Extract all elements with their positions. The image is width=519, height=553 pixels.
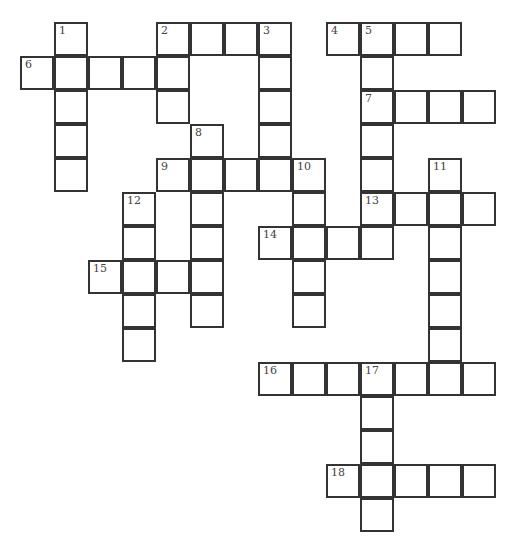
crossword-cell[interactable] xyxy=(292,192,326,226)
clue-number: 11 xyxy=(433,161,447,173)
crossword-cell[interactable]: 9 xyxy=(156,158,190,192)
crossword-cell[interactable] xyxy=(190,158,224,192)
crossword-cell[interactable]: 8 xyxy=(190,124,224,158)
crossword-cell[interactable]: 18 xyxy=(326,464,360,498)
crossword-cell[interactable] xyxy=(190,22,224,56)
crossword-cell[interactable] xyxy=(54,158,88,192)
crossword-cell[interactable]: 6 xyxy=(20,56,54,90)
crossword-cell[interactable]: 7 xyxy=(360,90,394,124)
crossword-cell[interactable]: 10 xyxy=(292,158,326,192)
crossword-cell[interactable] xyxy=(156,90,190,124)
crossword-cell[interactable]: 16 xyxy=(258,362,292,396)
crossword-cell[interactable] xyxy=(394,192,428,226)
crossword-cell[interactable] xyxy=(428,260,462,294)
crossword-cell[interactable]: 4 xyxy=(326,22,360,56)
clue-number: 12 xyxy=(127,195,141,207)
crossword-cell[interactable] xyxy=(224,22,258,56)
clue-number: 17 xyxy=(365,365,379,377)
clue-number: 4 xyxy=(331,25,338,37)
clue-number: 18 xyxy=(331,467,345,479)
crossword-cell[interactable] xyxy=(258,124,292,158)
crossword-cell[interactable] xyxy=(54,56,88,90)
crossword-cell[interactable] xyxy=(190,294,224,328)
crossword-cell[interactable] xyxy=(156,260,190,294)
clue-number: 14 xyxy=(263,229,277,241)
crossword-cell[interactable] xyxy=(428,192,462,226)
clue-number: 3 xyxy=(263,25,270,37)
crossword-cell[interactable]: 14 xyxy=(258,226,292,260)
clue-number: 5 xyxy=(365,25,372,37)
clue-number: 1 xyxy=(59,25,66,37)
crossword-cell[interactable] xyxy=(292,362,326,396)
crossword-cell[interactable] xyxy=(394,362,428,396)
crossword-cell[interactable] xyxy=(428,90,462,124)
crossword-cell[interactable] xyxy=(326,362,360,396)
crossword-cell[interactable] xyxy=(360,226,394,260)
crossword-cell[interactable] xyxy=(122,226,156,260)
crossword-cell[interactable] xyxy=(122,294,156,328)
crossword-cell[interactable] xyxy=(428,226,462,260)
crossword-cell[interactable] xyxy=(122,56,156,90)
crossword-cell[interactable] xyxy=(462,90,496,124)
crossword-cell[interactable] xyxy=(462,192,496,226)
crossword-cell[interactable] xyxy=(360,158,394,192)
clue-number: 16 xyxy=(263,365,277,377)
crossword-cell[interactable] xyxy=(258,90,292,124)
crossword-cell[interactable]: 3 xyxy=(258,22,292,56)
crossword-cell[interactable]: 2 xyxy=(156,22,190,56)
crossword-cell[interactable] xyxy=(224,158,258,192)
clue-number: 10 xyxy=(297,161,311,173)
crossword-cell[interactable] xyxy=(428,362,462,396)
crossword-cell[interactable] xyxy=(190,260,224,294)
crossword-cell[interactable] xyxy=(394,22,428,56)
crossword-cell[interactable] xyxy=(360,56,394,90)
crossword-cell[interactable] xyxy=(54,124,88,158)
crossword-cell[interactable] xyxy=(428,328,462,362)
crossword-cell[interactable]: 1 xyxy=(54,22,88,56)
crossword-cell[interactable] xyxy=(360,430,394,464)
crossword-cell[interactable] xyxy=(292,226,326,260)
crossword-cell[interactable] xyxy=(462,464,496,498)
crossword-cell[interactable] xyxy=(428,294,462,328)
crossword-cell[interactable] xyxy=(360,464,394,498)
crossword-cell[interactable] xyxy=(394,464,428,498)
crossword-cell[interactable]: 15 xyxy=(88,260,122,294)
clue-number: 7 xyxy=(365,93,372,105)
crossword-cell[interactable] xyxy=(360,396,394,430)
clue-number: 9 xyxy=(161,161,168,173)
crossword-cell[interactable] xyxy=(122,260,156,294)
crossword-grid: 123456789101112131415161718 xyxy=(0,0,519,553)
crossword-cell[interactable] xyxy=(122,328,156,362)
crossword-cell[interactable]: 17 xyxy=(360,362,394,396)
crossword-cell[interactable] xyxy=(360,498,394,532)
crossword-cell[interactable] xyxy=(190,226,224,260)
clue-number: 6 xyxy=(25,59,32,71)
crossword-cell[interactable] xyxy=(258,56,292,90)
crossword-cell[interactable]: 11 xyxy=(428,158,462,192)
crossword-cell[interactable] xyxy=(88,56,122,90)
clue-number: 2 xyxy=(161,25,168,37)
crossword-cell[interactable] xyxy=(462,362,496,396)
crossword-cell[interactable] xyxy=(394,90,428,124)
crossword-cell[interactable] xyxy=(326,226,360,260)
crossword-cell[interactable]: 5 xyxy=(360,22,394,56)
crossword-cell[interactable]: 12 xyxy=(122,192,156,226)
clue-number: 8 xyxy=(195,127,202,139)
crossword-cell[interactable] xyxy=(156,56,190,90)
crossword-cell[interactable] xyxy=(258,158,292,192)
crossword-cell[interactable] xyxy=(428,464,462,498)
crossword-cell[interactable] xyxy=(292,260,326,294)
crossword-cell[interactable] xyxy=(360,124,394,158)
crossword-cell[interactable] xyxy=(428,22,462,56)
crossword-cell[interactable]: 13 xyxy=(360,192,394,226)
crossword-cell[interactable] xyxy=(190,192,224,226)
crossword-cell[interactable] xyxy=(292,294,326,328)
crossword-cell[interactable] xyxy=(54,90,88,124)
clue-number: 13 xyxy=(365,195,379,207)
clue-number: 15 xyxy=(93,263,107,275)
